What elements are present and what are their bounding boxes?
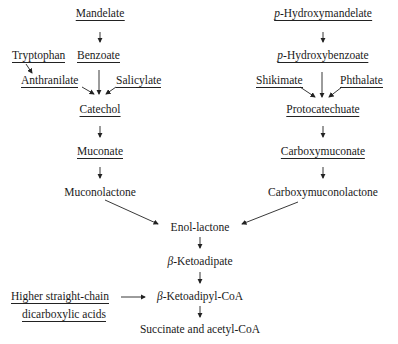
- label-p-hydroxybenzoate: -Hydroxybenzoate: [283, 49, 369, 61]
- node-muconolactone: Muconolactone: [64, 186, 136, 199]
- node-tryptophan: Tryptophan: [12, 49, 65, 62]
- label-muconate: Muconate: [77, 145, 123, 159]
- label-protocatechuate: Protocatechuate: [286, 103, 359, 117]
- pathway-diagram: Mandelate Tryptophan Benzoate Anthranila…: [0, 0, 398, 344]
- node-protocatechuate: Protocatechuate: [286, 103, 359, 116]
- label-carboxymuconate: Carboxymuconate: [281, 145, 365, 159]
- arrow-salicylate-catechol: [106, 87, 116, 94]
- label-shikimate: Shikimate: [256, 74, 303, 88]
- label-enol-lactone: Enol-lactone: [171, 221, 230, 233]
- label-mandelate: Mandelate: [76, 7, 125, 21]
- arrow-muconolactone-enollactone: [105, 200, 158, 224]
- label-p-hydroxymandelate: -Hydroxymandelate: [280, 7, 372, 19]
- arrow-shikimate-protocatechuate: [300, 87, 315, 97]
- label-succinate-acetyl-coa: Succinate and acetyl-CoA: [140, 323, 260, 335]
- node-enol-lactone: Enol-lactone: [171, 221, 230, 234]
- node-catechol: Catechol: [80, 103, 121, 116]
- label-tryptophan: Tryptophan: [12, 49, 65, 63]
- label-higher-straight-chain: Higher straight-chain: [11, 290, 109, 304]
- node-beta-ketoadipyl-coa: β-Ketoadipyl-CoA: [157, 290, 243, 303]
- label-beta-ketoadipate: -Ketoadipate: [173, 255, 232, 267]
- arrow-carboxymuconolactone-enollactone: [242, 202, 298, 224]
- node-anthranilate: Anthranilate: [21, 74, 78, 87]
- node-carboxymuconolactone: Carboxymuconolactone: [268, 186, 378, 199]
- label-muconolactone: Muconolactone: [64, 186, 136, 198]
- node-shikimate: Shikimate: [256, 74, 303, 87]
- label-catechol: Catechol: [80, 103, 121, 117]
- node-p-hydroxymandelate: p-Hydroxymandelate: [274, 7, 372, 20]
- label-beta-ketoadipyl-coa: -Ketoadipyl-CoA: [163, 290, 243, 302]
- arrow-anthranilate-catechol: [82, 87, 94, 94]
- node-phthalate: Phthalate: [340, 74, 383, 87]
- label-phthalate: Phthalate: [340, 74, 383, 88]
- node-p-hydroxybenzoate: p-Hydroxybenzoate: [277, 49, 368, 62]
- node-higher-acids-line1: Higher straight-chain: [11, 290, 109, 303]
- node-benzoate: Benzoate: [77, 49, 120, 62]
- label-carboxymuconolactone: Carboxymuconolactone: [268, 186, 378, 198]
- node-carboxymuconate: Carboxymuconate: [281, 145, 365, 158]
- label-salicylate: Salicylate: [116, 74, 161, 88]
- arrow-phthalate-protocatechuate: [329, 87, 342, 97]
- label-dicarboxylic-acids: dicarboxylic acids: [22, 308, 106, 322]
- label-anthranilate: Anthranilate: [21, 74, 78, 88]
- arrow-tryptophan-anthranilate: [26, 64, 32, 73]
- label-benzoate: Benzoate: [77, 49, 120, 63]
- node-higher-acids-line2: dicarboxylic acids: [22, 308, 106, 321]
- node-mandelate: Mandelate: [76, 7, 125, 20]
- node-beta-ketoadipate: β-Ketoadipate: [167, 255, 232, 268]
- node-muconate: Muconate: [77, 145, 123, 158]
- node-products: Succinate and acetyl-CoA: [140, 323, 260, 336]
- node-salicylate: Salicylate: [116, 74, 161, 87]
